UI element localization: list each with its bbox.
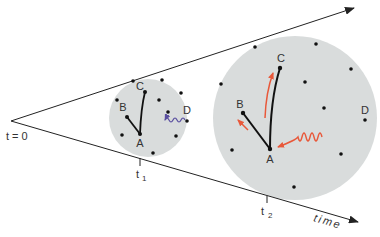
small-label-a: A	[136, 137, 144, 149]
large-circle-t2	[213, 36, 377, 200]
t1-label: t	[136, 168, 139, 180]
t2-label: t	[261, 205, 264, 217]
large-label-c: C	[277, 52, 285, 64]
large-label-a: A	[266, 153, 274, 165]
t1-subscript: 1	[142, 174, 147, 183]
time-axis-label: time	[312, 211, 343, 230]
large-label-d: D	[361, 104, 369, 116]
large-label-b: B	[236, 98, 243, 110]
origin-label: t = 0	[6, 130, 28, 142]
small-label-b: B	[119, 101, 126, 113]
small-label-d: D	[183, 104, 191, 116]
light-cone-diagram: C B A D C B A D t = 0 t 1 t 2 time	[0, 0, 380, 237]
t2-subscript: 2	[268, 211, 273, 220]
small-label-c: C	[136, 80, 144, 92]
